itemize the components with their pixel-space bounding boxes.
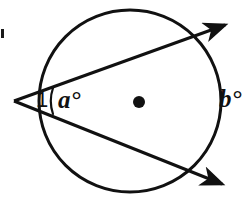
angle-arc-marker [51, 88, 53, 114]
circle-center-dot [133, 96, 145, 108]
geometry-figure: 1 a° b° [0, 0, 247, 204]
arc-label-a: a° [58, 87, 81, 112]
angle-label-1: 1 [36, 89, 48, 111]
arc-label-b: b° [219, 86, 242, 111]
lower-secant-ray [14, 101, 222, 184]
edge-speck-artifact [1, 29, 4, 38]
